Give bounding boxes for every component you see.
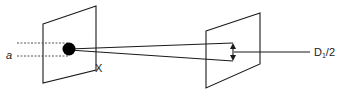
distance-label: X — [95, 62, 103, 74]
beam-top-line — [69, 43, 233, 49]
aperture-label: a — [6, 49, 12, 61]
diameter-label-tail: /2 — [326, 46, 335, 58]
source-dot — [63, 43, 76, 56]
beam-divergence-diagram: a X D1/2 — [0, 0, 341, 94]
beam-bottom-line — [69, 50, 233, 61]
diameter-label-main: D — [314, 46, 322, 58]
diameter-label: D1/2 — [314, 46, 335, 59]
